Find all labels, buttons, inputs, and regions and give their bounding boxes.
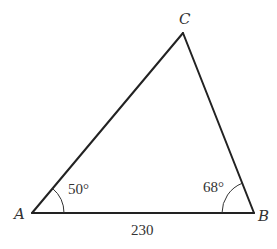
angle-arc-b bbox=[222, 183, 242, 213]
triangle-diagram: A B C 50° 68° 230 bbox=[0, 0, 277, 249]
vertex-label-b: B bbox=[257, 207, 269, 225]
side-ac bbox=[32, 33, 183, 213]
vertex-label-a: A bbox=[12, 205, 25, 223]
side-label-ab: 230 bbox=[131, 222, 154, 238]
angle-label-a: 50° bbox=[68, 181, 89, 197]
angle-label-b: 68° bbox=[203, 179, 224, 195]
vertex-label-c: C bbox=[179, 10, 191, 28]
angle-arc-a bbox=[53, 189, 64, 214]
